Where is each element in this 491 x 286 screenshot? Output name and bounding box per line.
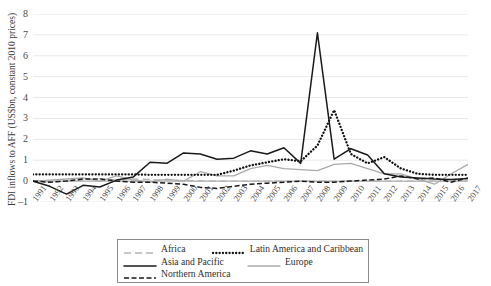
legend-label: Northern America (161, 269, 231, 279)
y-axis-tick: 0 (10, 176, 28, 186)
y-axis-tick: 1 (10, 155, 28, 165)
legend-label: Latin America and Caribbean (250, 244, 363, 254)
legend-label: Africa (161, 244, 186, 254)
plot-area (33, 14, 468, 202)
legend-swatch-icon (123, 244, 157, 254)
y-axis-tick: 7 (10, 30, 28, 40)
y-axis-tick-labels: 876543210–1 (10, 0, 28, 286)
y-axis-tick: 3 (10, 113, 28, 123)
legend-item[interactable]: Africa (123, 244, 212, 254)
legend-item[interactable]: Latin America and Caribbean (212, 244, 363, 254)
chart-legend: AfricaLatin America and CaribbeanAsia an… (117, 239, 369, 283)
legend-swatch-icon (123, 269, 157, 279)
y-axis-tick: –1 (10, 197, 28, 207)
legend-swatch-icon (247, 257, 281, 267)
x-axis-tick: 2017 (466, 184, 483, 203)
plot-svg (33, 14, 468, 202)
y-axis-tick: 4 (10, 93, 28, 103)
y-axis-tick: 2 (10, 134, 28, 144)
y-axis-tick: 8 (10, 9, 28, 19)
legend-swatch-icon (123, 257, 157, 267)
y-axis-tick: 5 (10, 72, 28, 82)
legend-label: Europe (285, 257, 313, 267)
legend-row: AfricaLatin America and Caribbean (123, 243, 363, 256)
legend-item[interactable]: Northern America (123, 269, 247, 279)
fdi-inflows-line-chart: FDI inflows to AFF (US$bn, constant 2010… (0, 0, 491, 286)
legend-swatch-icon (212, 244, 246, 254)
series-line-latin-america-and-caribbean (33, 110, 468, 175)
legend-item[interactable]: Europe (247, 257, 313, 267)
legend-label: Asia and Pacific (161, 257, 224, 267)
legend-item[interactable]: Asia and Pacific (123, 257, 247, 267)
y-axis-tick: 6 (10, 51, 28, 61)
x-axis-tick-labels: 1991199219931994199519961997199819992000… (33, 196, 468, 240)
legend-row: Northern America (123, 268, 363, 281)
legend-row: Asia and PacificEurope (123, 256, 363, 269)
